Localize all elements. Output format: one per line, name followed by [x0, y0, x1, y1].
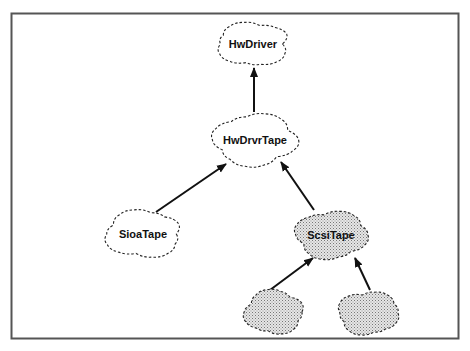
class-label: HwDriver [229, 38, 278, 50]
class-node-hwdriver: HwDriver [218, 22, 287, 65]
inheritance-arrow-scsitape-to-hwdrvrtape [281, 162, 314, 210]
class-node-sub2 [338, 292, 398, 335]
class-node-scsitape: ScsiTape [294, 211, 368, 259]
cloud-shape [338, 292, 398, 335]
class-node-sub1 [243, 289, 303, 334]
class-label: HwDrvrTape [223, 134, 287, 146]
inheritance-arrow-sub2-to-scsitape [355, 258, 370, 290]
class-node-sioatape: SioaTape [105, 210, 179, 258]
cloud-shape [243, 289, 303, 334]
inheritance-arrow-sioatape-to-hwdrvrtape [156, 164, 226, 212]
class-label: SioaTape [119, 228, 167, 240]
inheritance-arrow-sub1-to-scsitape [270, 258, 313, 290]
class-node-hwdrvrtape: HwDrvrTape [212, 114, 299, 168]
class-label: ScsiTape [307, 229, 355, 241]
class-hierarchy-diagram: HwDriverHwDrvrTapeSioaTapeScsiTape [0, 0, 470, 351]
